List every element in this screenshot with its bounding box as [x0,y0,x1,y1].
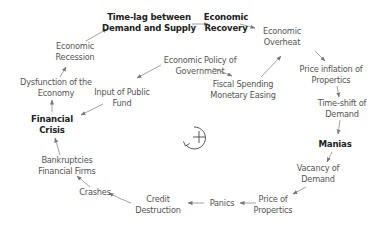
node-panics: Panics [210,198,235,209]
node-price-of-properties: Price of Propertics [254,194,293,215]
node-financial-crisis: Financial Crisis [31,114,73,135]
node-label-line: Government [164,66,237,77]
node-label-line: Demand and Supply [102,23,196,34]
arrow-policy-to-inputfund [137,65,161,78]
arrow-overheat-to-priceinflation [315,51,325,61]
node-label-line: Demand [318,109,367,120]
arrow-timeshift-to-manias [338,120,340,134]
node-label-line: Time-shift of [318,98,367,109]
node-label-line: Recession [55,52,94,63]
node-dysfunction: Dysfunction of the Economy [20,77,92,98]
node-label-line: Destruction [135,205,180,216]
node-economic-recovery: Economic Recovery [204,12,248,33]
node-crashes: Crashes [79,187,110,198]
node-input-public-fund: Input of Public Fund [94,87,150,108]
node-label-line: Propertics [254,205,293,216]
arrow-crashes-to-bankruptcies [77,176,90,187]
arrow-vacancy-to-priceofprops [293,187,306,194]
node-label-line: Manias [318,139,351,150]
node-manias: Manias [318,139,351,150]
node-label-line: Financial Firms [38,166,95,177]
node-label-line: Dysfunction of the [20,77,92,88]
node-label-line: Price of [254,194,293,205]
node-label-line: Economy [20,88,92,99]
node-label-line: Crashes [79,187,110,198]
node-fiscal-spending: Fiscal Spending Monetary Easing [210,79,275,100]
node-label-line: Recovery [204,23,248,34]
arrow-credit-to-crashes [109,193,131,203]
node-label-line: Financial [31,114,73,125]
node-price-inflation: Price inflation of Propertics [300,64,363,85]
node-vacancy-of-demand: Vacancy of Demand [297,163,340,184]
node-label-line: Monetary Easing [210,90,275,101]
arrow-fiscal-to-overheat [261,56,281,77]
node-label-line: Fiscal Spending [210,79,275,90]
node-label-line: Economic [204,12,248,23]
node-economic-recession: Economic Recession [55,41,94,62]
node-time-lag: Time-lag between Demand and Supply [102,12,196,33]
reinforcing-loop-icon [184,127,206,149]
node-time-shift: Time-shift of Demand [318,98,367,119]
node-label-line: Fund [94,98,150,109]
arrow-priceinflation-to-timeshift [337,86,339,97]
node-label-line: Economic [55,41,94,52]
arrow-manias-to-vacancy [327,152,332,162]
arrow-bankruptcies-to-crisis [55,138,60,155]
node-label-line: Crisis [31,125,73,136]
node-label-line: Economic Policy of [164,55,237,66]
node-label-line: Economic [263,26,301,37]
node-economic-policy: Economic Policy of Government [164,55,237,76]
node-label-line: Input of Public [94,87,150,98]
node-label-line: Bankruptcies [38,155,95,166]
node-economic-overheat: Economic Overheat [263,26,301,47]
node-label-line: Propertics [300,75,363,86]
node-label-line: Price inflation of [300,64,363,75]
node-credit-destruction: Credit Destruction [135,194,180,215]
arrow-dysfunction-to-recession [60,67,66,77]
node-label-line: Overheat [263,37,301,48]
node-label-line: Credit [135,194,180,205]
node-label-line: Time-lag between [102,12,196,23]
node-label-line: Vacancy of [297,163,340,174]
node-label-line: Panics [210,198,235,209]
node-bankruptcies: Bankruptcies Financial Firms [38,155,95,176]
node-label-line: Demand [297,174,340,185]
